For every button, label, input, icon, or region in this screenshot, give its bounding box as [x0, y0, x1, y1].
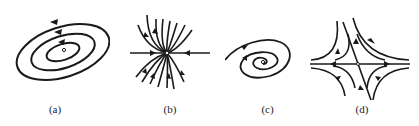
panel-a-label: (a): [0, 103, 110, 115]
spiral-phase-portrait: [225, 0, 310, 100]
panel-b-label: (b): [130, 103, 210, 115]
panel-b-node: (b): [130, 0, 210, 126]
node-phase-portrait: [130, 0, 210, 100]
panel-c-label: (c): [225, 103, 310, 115]
center-phase-portrait: [0, 0, 110, 100]
panel-c-spiral: (c): [225, 0, 310, 126]
panel-a-center: (a): [0, 0, 110, 126]
panel-d-saddle: (d): [305, 0, 419, 126]
panel-d-label: (d): [305, 103, 419, 115]
saddle-phase-portrait: [305, 0, 419, 100]
